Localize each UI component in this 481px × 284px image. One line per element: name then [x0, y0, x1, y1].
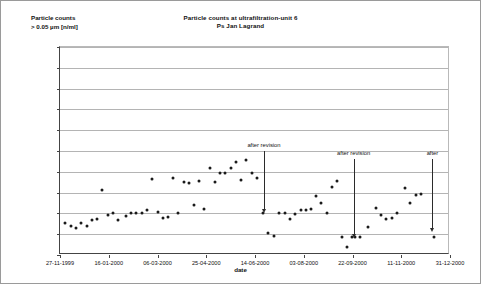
y-tick-mark	[57, 47, 60, 48]
annotation-arrow-head	[430, 228, 434, 232]
data-point	[208, 167, 211, 170]
data-point	[409, 201, 412, 204]
y-tick-mark	[57, 213, 60, 214]
gridline	[60, 68, 448, 69]
data-point	[340, 235, 343, 238]
gridline	[60, 172, 448, 173]
data-point	[239, 178, 242, 181]
data-point	[404, 186, 407, 189]
data-point	[299, 209, 302, 212]
annotation-arrow-line	[432, 159, 433, 228]
plot-area: 05001,0001,5002,0002,5003,0003,5004,0004…	[59, 46, 449, 254]
data-point	[278, 212, 281, 215]
data-point	[250, 172, 253, 175]
annotation-label: after	[427, 150, 439, 156]
data-point	[224, 172, 227, 175]
y-tick-mark	[57, 151, 60, 152]
x-tick-mark	[353, 255, 354, 258]
data-point	[214, 180, 217, 183]
data-point	[124, 214, 127, 217]
gridline	[60, 213, 448, 214]
data-point	[85, 225, 88, 228]
data-point	[294, 212, 297, 215]
x-axis-title: date	[1, 266, 480, 273]
x-tick-mark	[158, 255, 159, 258]
annotation-label: after revision	[247, 142, 280, 148]
data-point	[380, 214, 383, 217]
y-tick-mark	[57, 109, 60, 110]
data-point	[272, 235, 275, 238]
x-tick-label: 03-08-2000	[289, 260, 318, 266]
x-tick-mark	[109, 255, 110, 258]
x-tick-label: 11-11-2000	[387, 260, 415, 266]
data-point	[74, 227, 77, 230]
data-point	[283, 211, 286, 214]
data-point	[117, 219, 120, 222]
data-point	[289, 218, 292, 221]
x-tick-label: 14-06-2000	[241, 260, 270, 266]
data-point	[267, 231, 270, 234]
gridline	[60, 47, 448, 48]
data-point	[101, 188, 104, 191]
x-tick-mark	[60, 255, 61, 258]
data-point	[315, 194, 318, 197]
x-tick-label: 16-01-2000	[94, 260, 123, 266]
data-point	[419, 192, 422, 195]
x-tick-mark	[255, 255, 256, 258]
data-point	[310, 207, 313, 210]
data-point	[320, 202, 323, 205]
data-point	[203, 208, 206, 211]
x-tick-label: 31-12-2000	[436, 260, 465, 266]
data-point	[135, 212, 138, 215]
annotation-arrow-head	[262, 209, 266, 213]
data-point	[140, 211, 143, 214]
data-point	[395, 212, 398, 215]
data-point	[80, 222, 83, 225]
data-point	[255, 177, 258, 180]
data-point	[385, 217, 388, 220]
data-point	[63, 222, 66, 225]
data-point	[346, 245, 349, 248]
data-point	[156, 211, 159, 214]
x-tick-mark	[401, 255, 402, 258]
gridline	[60, 234, 448, 235]
data-point	[130, 212, 133, 215]
gridline	[60, 193, 448, 194]
annotation-label: after revision	[337, 150, 370, 156]
data-point	[96, 218, 99, 221]
data-point	[167, 215, 170, 218]
x-tick-label: 27-11-1999	[46, 260, 74, 266]
y-tick-mark	[57, 193, 60, 194]
data-point	[161, 216, 164, 219]
y-tick-mark	[57, 234, 60, 235]
data-point	[172, 177, 175, 180]
x-tick-mark	[304, 255, 305, 258]
y-tick-mark	[57, 130, 60, 131]
data-point	[177, 211, 180, 214]
x-tick-label: 06-03-2000	[143, 260, 172, 266]
gridline	[60, 151, 448, 152]
chart-frame: Particle counts at ultrafiltration-unit …	[0, 0, 481, 284]
data-point	[359, 236, 362, 239]
data-point	[219, 171, 222, 174]
data-point	[198, 179, 201, 182]
data-point	[330, 186, 333, 189]
data-point	[111, 211, 114, 214]
data-point	[229, 166, 232, 169]
data-point	[234, 160, 237, 163]
data-point	[414, 194, 417, 197]
data-point	[390, 216, 393, 219]
data-point	[374, 206, 377, 209]
y-tick-mark	[57, 89, 60, 90]
data-point	[325, 211, 328, 214]
data-point	[145, 209, 148, 212]
data-point	[304, 208, 307, 211]
annotation-arrow-line	[264, 151, 265, 210]
data-point	[187, 182, 190, 185]
y-tick-mark	[57, 172, 60, 173]
data-point	[245, 158, 248, 161]
y-axis-title: Particle counts > 0.05 µm [n/ml]	[31, 14, 78, 31]
data-point	[192, 204, 195, 207]
x-tick-label: 22-09-2000	[338, 260, 367, 266]
data-point	[367, 226, 370, 229]
